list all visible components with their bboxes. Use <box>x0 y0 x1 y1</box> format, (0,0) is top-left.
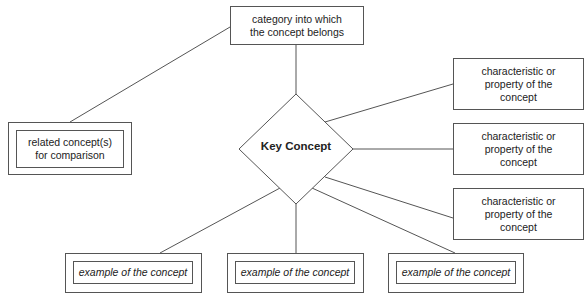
example-label-2: example of the concept <box>241 266 350 279</box>
related-concept-inner-box: related concept(s) for comparison <box>16 130 124 168</box>
example-label-3: example of the concept <box>402 266 511 279</box>
key-concept-label: Key Concept <box>239 140 353 152</box>
example-inner-box-2: example of the concept <box>235 261 355 284</box>
example-inner-box-3: example of the concept <box>396 261 516 284</box>
characteristic-box-1: characteristic or property of the concep… <box>453 58 584 110</box>
category-label: category into which the concept belongs <box>250 13 344 39</box>
link-characteristic-1 <box>325 84 453 122</box>
related-concept-label: related concept(s) for comparison <box>28 136 112 162</box>
characteristic-box-3: characteristic or property of the concep… <box>453 188 584 240</box>
link-example-1 <box>160 188 280 253</box>
characteristic-label-3: characteristic or property of the concep… <box>481 195 555 234</box>
link-characteristic-3 <box>325 177 453 218</box>
example-label-1: example of the concept <box>79 266 188 279</box>
category-box: category into which the concept belongs <box>230 6 364 45</box>
characteristic-label-2: characteristic or property of the concep… <box>481 130 555 169</box>
link-example-3 <box>312 188 455 253</box>
characteristic-box-2: characteristic or property of the concep… <box>453 123 584 175</box>
characteristic-label-1: characteristic or property of the concep… <box>481 65 555 104</box>
link-related <box>70 27 230 122</box>
example-inner-box-1: example of the concept <box>73 261 193 284</box>
